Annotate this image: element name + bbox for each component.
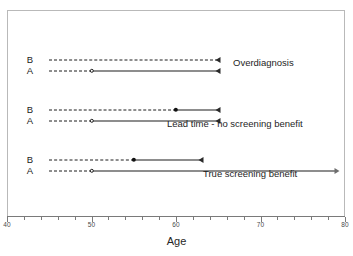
scenario-annotation: True screening benefit xyxy=(203,168,297,179)
preclinical-dashed-segment xyxy=(49,160,134,161)
endpoint-tri-left-marker xyxy=(216,68,221,74)
x-tick-label: 60 xyxy=(172,221,180,228)
x-tick-minor xyxy=(108,217,109,220)
x-tick-minor xyxy=(159,217,160,220)
plot-frame xyxy=(7,10,345,217)
preclinical-dashed-segment xyxy=(49,121,91,122)
x-tick-minor xyxy=(75,217,76,220)
row-label-a: A xyxy=(27,66,33,76)
scenario-annotation: Lead time - no screening benefit xyxy=(167,118,303,129)
x-tick-label: 50 xyxy=(88,221,96,228)
x-tick-minor xyxy=(277,217,278,220)
preclinical-dashed-segment xyxy=(49,110,176,111)
clinical-solid-segment xyxy=(92,71,219,72)
x-tick-minor xyxy=(210,217,211,220)
x-axis-title: Age xyxy=(0,235,353,247)
x-tick-minor xyxy=(311,217,312,220)
row-label-a: A xyxy=(27,116,33,126)
x-tick-minor xyxy=(244,217,245,220)
x-tick-minor xyxy=(58,217,59,220)
endpoint-tri-open-marker xyxy=(334,168,339,174)
row-label-b: B xyxy=(27,105,33,115)
row-label-b: B xyxy=(27,55,33,65)
scenario-annotation: Overdiagnosis xyxy=(233,57,294,68)
x-tick-minor xyxy=(24,217,25,220)
clinical-solid-segment xyxy=(134,160,202,161)
x-tick-label: 40 xyxy=(3,221,11,228)
x-tick-label: 70 xyxy=(257,221,265,228)
x-tick-minor xyxy=(41,217,42,220)
preclinical-dashed-segment xyxy=(49,171,91,172)
x-tick-minor xyxy=(328,217,329,220)
row-label-b: B xyxy=(27,155,33,165)
x-tick-minor xyxy=(142,217,143,220)
x-tick-minor xyxy=(193,217,194,220)
x-tick-minor xyxy=(227,217,228,220)
endpoint-tri-left-marker xyxy=(199,157,204,163)
clinical-solid-segment xyxy=(176,110,218,111)
preclinical-dashed-segment xyxy=(49,71,91,72)
preclinical-dashed-segment xyxy=(49,60,218,61)
endpoint-tri-left-marker xyxy=(216,57,221,63)
x-tick-minor xyxy=(294,217,295,220)
row-label-a: A xyxy=(27,166,33,176)
x-tick-minor xyxy=(125,217,126,220)
chart-figure: BAOverdiagnosisBALead time - no screenin… xyxy=(0,0,353,256)
endpoint-tri-left-marker xyxy=(216,107,221,113)
x-tick-label: 80 xyxy=(341,221,349,228)
